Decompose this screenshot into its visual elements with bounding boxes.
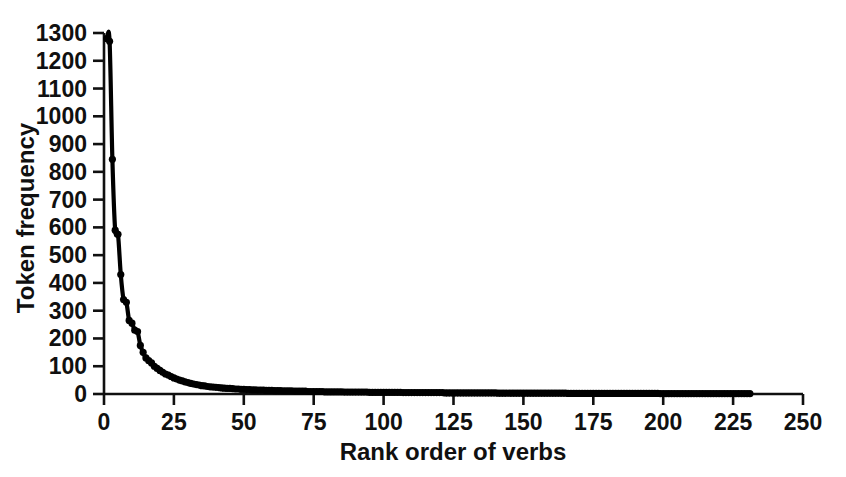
x-tick-label-250: 250 — [784, 409, 822, 435]
y-tick-label-400: 400 — [49, 270, 87, 296]
y-tick-label-300: 300 — [49, 298, 87, 324]
data-point — [106, 38, 113, 45]
chart-background — [0, 0, 846, 477]
x-tick-label-25: 25 — [161, 409, 187, 435]
x-axis-title: Rank order of verbs — [340, 438, 567, 465]
data-point — [134, 328, 141, 335]
x-tick-label-75: 75 — [301, 409, 327, 435]
y-tick-label-0: 0 — [74, 381, 87, 407]
y-tick-label-1100: 1100 — [37, 76, 87, 102]
x-tick-label-100: 100 — [364, 409, 402, 435]
y-tick-label-800: 800 — [49, 159, 87, 185]
y-tick-label-1200: 1200 — [36, 48, 87, 74]
y-tick-label-900: 900 — [49, 131, 87, 157]
data-point — [746, 390, 753, 397]
data-point — [117, 271, 124, 278]
data-point — [128, 320, 135, 327]
y-tick-label-1300: 1300 — [36, 20, 87, 46]
y-axis-title: Token frequency — [12, 122, 39, 313]
rank-frequency-scatter-plot: 0255075100125150175200225250 01002003004… — [0, 0, 846, 477]
x-tick-label-150: 150 — [504, 409, 542, 435]
x-tick-label-50: 50 — [231, 409, 257, 435]
x-tick-label-175: 175 — [574, 409, 613, 435]
y-tick-label-500: 500 — [49, 242, 87, 268]
y-tick-label-1000: 1000 — [36, 103, 87, 129]
x-tick-label-225: 225 — [714, 409, 753, 435]
y-tick-label-200: 200 — [49, 325, 87, 351]
chart-figure: 0255075100125150175200225250 01002003004… — [0, 0, 846, 477]
data-point — [114, 231, 121, 238]
x-tick-label-125: 125 — [434, 409, 473, 435]
data-point — [123, 299, 130, 306]
y-tick-label-700: 700 — [49, 187, 87, 213]
x-tick-label-200: 200 — [644, 409, 682, 435]
x-tick-label-0: 0 — [98, 409, 111, 435]
y-tick-label-100: 100 — [49, 353, 87, 379]
y-tick-label-600: 600 — [49, 214, 87, 240]
data-point — [137, 342, 144, 349]
data-point — [109, 156, 116, 163]
